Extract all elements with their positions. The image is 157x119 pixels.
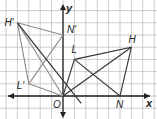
point-label-l: L: [71, 44, 77, 55]
point-label-l-prime: L': [17, 80, 26, 91]
ray-from-origin: [63, 59, 74, 96]
point-label-n-prime: N': [67, 24, 77, 35]
x-axis-arrow-left-icon: [8, 93, 14, 99]
point-label-h-prime: H': [4, 17, 14, 28]
y-axis-arrow-down-icon: [60, 112, 66, 118]
point-label-h: H: [128, 34, 136, 45]
y-axis-label: y: [65, 2, 73, 14]
ray-from-origin: [29, 84, 63, 96]
grid-lines: [0, 0, 157, 119]
coordinate-plane: HNLH'N'L'Oxy: [0, 0, 157, 119]
point-label-o: O: [53, 99, 61, 110]
x-axis-label: x: [145, 97, 153, 109]
point-label-n: N: [116, 99, 124, 110]
point-labels: HNLH'N'L'Oxy: [4, 2, 153, 110]
